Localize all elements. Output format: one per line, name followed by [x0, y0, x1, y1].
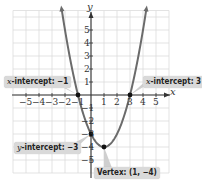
x-intercept-left-label: x-intercept: −1 — [4, 76, 71, 88]
vertex-label: Vertex: (1, −4) — [94, 167, 160, 179]
x-tick-label: −3 — [45, 98, 58, 107]
x-intercept-right-text: -intercept: 3 — [151, 77, 202, 86]
curve-arrow-icon — [60, 5, 65, 11]
x-tick-label: −2 — [58, 98, 71, 107]
y-tick-label: 5 — [84, 26, 90, 35]
y-axis-label: y — [87, 1, 93, 12]
y-tick-label: −5 — [81, 156, 94, 165]
y-tick-label: −4 — [81, 143, 94, 152]
y-tick-label: 4 — [84, 39, 90, 48]
leader — [104, 147, 112, 168]
y-tick-label: 1 — [84, 78, 90, 87]
x-tick-label: 2 — [114, 98, 120, 107]
y-axis-arrow-icon — [89, 12, 94, 18]
y-intercept-label: y-intercept: −3 — [14, 142, 81, 154]
y-tick-label: −2 — [81, 117, 94, 126]
y-tick-label: 2 — [84, 65, 90, 74]
x-tick-label: 5 — [153, 98, 159, 107]
y-tick-label: 3 — [84, 52, 90, 61]
x-tick-label: −4 — [32, 98, 45, 107]
x-tick-label: −5 — [19, 98, 32, 107]
x-tick-label: 4 — [140, 98, 146, 107]
x-tick-label: 3 — [127, 98, 133, 107]
x-tick-label: 1 — [101, 98, 107, 107]
vertex-text: Vertex: (1, −4) — [97, 168, 157, 177]
y-tick-label: −3 — [81, 130, 94, 139]
label-leaders — [56, 80, 147, 168]
y-intercept-text: -intercept: −3 — [22, 143, 79, 152]
vertex-point — [102, 145, 107, 150]
x-intercept-left-text: -intercept: −1 — [12, 77, 69, 86]
y-tick-label: −1 — [81, 104, 94, 113]
x-intercept-right-label: x-intercept: 3 — [143, 76, 202, 88]
curve-arrow-icon — [144, 5, 149, 11]
